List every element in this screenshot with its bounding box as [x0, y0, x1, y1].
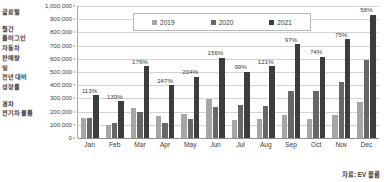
y-axis-tick-label: 300,000 [50, 95, 72, 101]
x-axis-tick-label: Feb [102, 140, 127, 149]
bar-2020 [313, 91, 318, 138]
bar-group-bars [354, 6, 379, 138]
side-caption: 글로벌월간플러그인자동차판매량및전년 대비성장률경차전기차 볼륨 [2, 7, 42, 118]
bar-2020 [263, 106, 268, 138]
x-axis-tick-label: Oct [304, 140, 329, 149]
y-axis-tick-mark [73, 72, 75, 73]
bar-2020 [288, 91, 293, 138]
bar-2020 [112, 123, 117, 138]
bar-group-bars [102, 6, 127, 138]
bar-group: 139% [102, 6, 127, 138]
bar-2019 [206, 99, 211, 138]
legend-swatch-icon [269, 20, 274, 25]
y-axis-tick-label: 100,000 [50, 122, 72, 128]
x-axis-tick-label: Aug [253, 140, 278, 149]
bar-2021 [194, 77, 199, 138]
bar-2019 [106, 125, 111, 138]
bar-group-bars [77, 6, 102, 138]
bar-group: 113% [77, 6, 102, 138]
caption-line: 및 [2, 63, 42, 73]
x-axis-tick-label: Mar [127, 140, 152, 149]
bar-2019 [307, 119, 312, 138]
caption-line: 판매량 [2, 53, 42, 63]
y-axis-tick-mark [73, 138, 75, 139]
y-axis-tick-mark [73, 58, 75, 59]
x-axis-tick-label: Jul [228, 140, 253, 149]
bar-2019 [232, 120, 237, 138]
x-axis-tick-label: Jun [203, 140, 228, 149]
growth-pct-label: 75% [335, 31, 347, 38]
caption-line: 전기차 볼륨 [2, 108, 42, 118]
legend-label: 2020 [219, 19, 234, 26]
caption-spacer [2, 17, 42, 24]
bar-2019 [282, 115, 287, 138]
bar-2020 [339, 82, 344, 138]
bar-2019 [257, 119, 262, 138]
y-axis-tick-label: 800,000 [50, 29, 72, 35]
caption-line: 월간 [2, 24, 42, 34]
x-axis-tick-label: Jan [77, 140, 102, 149]
bar-2019 [181, 114, 186, 138]
bar-2021 [219, 58, 224, 138]
caption-line: 성장률 [2, 82, 42, 92]
bar-2020 [238, 105, 243, 138]
source-note: 자료: EV 볼륨 [342, 171, 380, 179]
bar-2021 [244, 72, 249, 138]
bar-2019 [332, 115, 337, 138]
x-axis-tick-label: Dec [354, 140, 379, 149]
bar-2020 [87, 118, 92, 138]
y-axis-tick-label: 600,000 [50, 56, 72, 62]
growth-pct-label: 99% [234, 63, 246, 70]
bar-2021 [370, 15, 375, 138]
y-axis-tick-label: 1,000,000 [45, 3, 72, 9]
bar-2020 [188, 119, 193, 138]
legend-label: 2019 [160, 19, 175, 26]
bar-2021 [269, 66, 274, 138]
bar-2019 [357, 102, 362, 138]
y-axis-tick-mark [73, 6, 75, 7]
bar-2021 [93, 95, 98, 138]
bar-group: 58% [354, 6, 379, 138]
bar-2021 [144, 66, 149, 138]
y-axis-tick-label: 900,000 [50, 16, 72, 22]
bar-2021 [118, 101, 123, 138]
caption-line: 전년 대비 [2, 72, 42, 82]
legend-item-2020[interactable]: 2020 [211, 19, 234, 26]
caption-line: 자동차 [2, 43, 42, 53]
y-axis-tick-label: 500,000 [50, 69, 72, 75]
growth-pct-label: 58% [360, 6, 372, 13]
bar-2019 [131, 108, 136, 138]
bar-2019 [156, 116, 161, 138]
y-axis-tick-label: 700,000 [50, 43, 72, 49]
growth-pct-label: 176% [132, 58, 148, 65]
growth-pct-label: 247% [157, 77, 173, 84]
caption-line: 경차 [2, 99, 42, 109]
legend-swatch-icon [152, 20, 157, 25]
y-axis-tick-label: 0 [69, 135, 72, 141]
y-axis-tick-mark [73, 45, 75, 46]
bar-group: 75% [329, 6, 354, 138]
growth-pct-label: 113% [82, 87, 97, 94]
legend-label: 2021 [277, 19, 292, 26]
bar-group-bars [329, 6, 354, 138]
y-axis-tick-mark [73, 32, 75, 33]
growth-pct-label: 139% [107, 93, 123, 100]
bar-2020 [137, 112, 142, 138]
legend-item-2019[interactable]: 2019 [152, 19, 175, 26]
caption-line: 플러그인 [2, 33, 42, 43]
x-axis-tick-label: Nov [329, 140, 354, 149]
x-axis-tick-label: Sep [278, 140, 303, 149]
legend-item-2021[interactable]: 2021 [269, 19, 292, 26]
bar-2020 [364, 60, 369, 138]
bar-2019 [81, 118, 86, 138]
growth-pct-label: 156% [208, 49, 224, 56]
bar-2021 [345, 39, 350, 138]
y-axis-tick-mark [73, 124, 75, 125]
x-axis: JanFebMarAprMayJunJulAugSepOctNovDec [77, 140, 379, 149]
y-axis-tick-mark [73, 19, 75, 20]
y-axis-tick-label: 400,000 [50, 82, 72, 88]
bar-2020 [213, 107, 218, 138]
caption-spacer [2, 92, 42, 99]
y-axis: 1,000,000900,000800,000700,000600,000500… [43, 6, 75, 138]
x-axis-tick-label: Apr [153, 140, 178, 149]
